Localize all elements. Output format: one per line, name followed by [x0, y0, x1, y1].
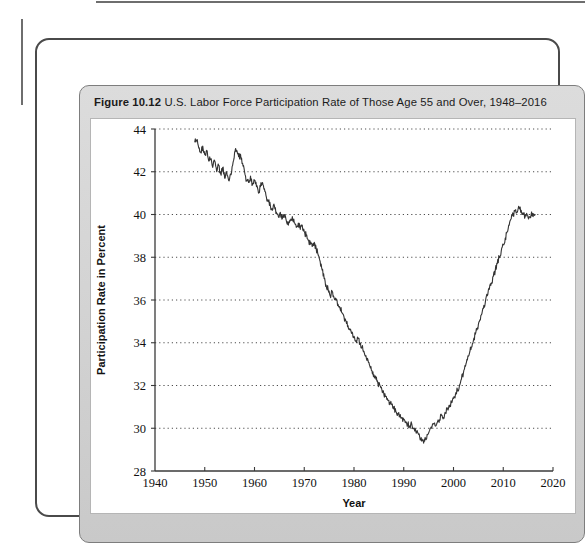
y-axis-ticks: 283032343638404244: [134, 123, 156, 479]
y-axis-title: Participation Rate in Percent: [95, 225, 107, 375]
plot-area: 283032343638404244 194019501960197019801…: [90, 118, 576, 514]
x-tick-label: 2020: [541, 476, 566, 490]
y-tick-label: 38: [134, 251, 147, 265]
y-tick-label: 32: [134, 379, 147, 393]
x-tick-label: 1970: [292, 476, 317, 490]
y-tick-label: 34: [134, 336, 147, 350]
line-chart: 283032343638404244 194019501960197019801…: [91, 119, 575, 513]
figure-caption: Figure 10.12 U.S. Labor Force Participat…: [94, 96, 574, 108]
x-tick-label: 2010: [491, 476, 516, 490]
figure-panel: Figure 10.12 U.S. Labor Force Participat…: [79, 85, 585, 543]
gridlines: [155, 129, 553, 428]
x-tick-label: 1990: [391, 476, 416, 490]
data-series-line: [195, 139, 535, 443]
x-tick-label: 1940: [143, 476, 168, 490]
x-tick-label: 2000: [441, 476, 466, 490]
figure-outer-frame: Figure 10.12 U.S. Labor Force Participat…: [35, 38, 560, 517]
figure-caption-text: U.S. Labor Force Participation Rate of T…: [164, 96, 546, 108]
x-tick-label: 1960: [242, 476, 267, 490]
y-tick-label: 36: [134, 294, 147, 308]
y-tick-label: 30: [134, 422, 147, 436]
x-axis-title: Year: [342, 497, 366, 509]
y-tick-label: 42: [134, 165, 147, 179]
page-left-rule: [21, 19, 23, 105]
y-tick-label: 40: [134, 208, 147, 222]
x-tick-label: 1980: [342, 476, 367, 490]
x-tick-label: 1950: [192, 476, 217, 490]
figure-number: Figure 10.12: [94, 96, 161, 108]
page-top-rule: [96, 1, 585, 3]
y-tick-label: 44: [134, 123, 147, 137]
